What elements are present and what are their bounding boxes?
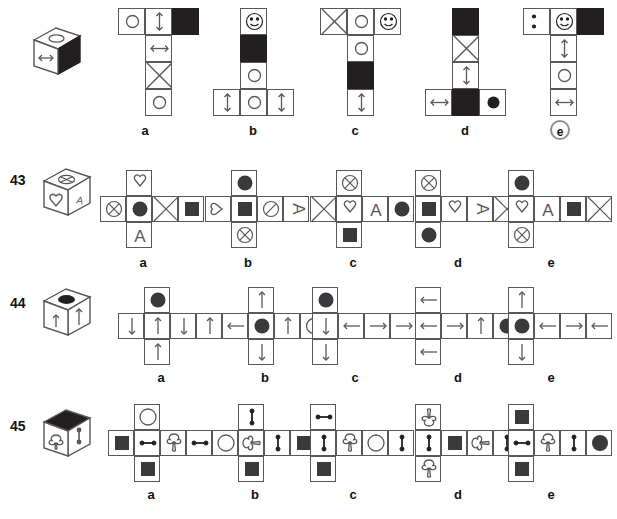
net-cell (390, 313, 416, 339)
net-cell (118, 313, 144, 339)
net-cell (508, 170, 534, 196)
cube-45 (38, 404, 98, 464)
net-cell (415, 287, 441, 313)
net-cell (388, 196, 414, 222)
net-cell (312, 313, 338, 339)
net-cell (415, 404, 441, 430)
svg-text:A: A (542, 201, 554, 220)
net-cell (336, 196, 362, 222)
net-cell (534, 430, 560, 456)
net-cell (108, 430, 134, 456)
net-cell (172, 8, 199, 35)
net-cell (338, 313, 364, 339)
net-cell (560, 430, 586, 456)
net-cell (205, 196, 231, 222)
net-cell (508, 196, 534, 222)
net-cell (238, 456, 264, 482)
net-cell (336, 170, 362, 196)
net-cell (274, 313, 300, 339)
net-cell (238, 404, 264, 430)
net-cell (452, 62, 479, 89)
net-cell (134, 430, 160, 456)
net-cell (240, 8, 267, 35)
net-cell (134, 404, 160, 430)
option-label-b: b (238, 255, 258, 270)
net-cell (310, 196, 336, 222)
net-cell (347, 62, 374, 89)
net-cell: A (126, 222, 152, 248)
net-cell (248, 339, 274, 365)
net-cell (452, 35, 479, 62)
net-cell (257, 196, 283, 222)
option-label-e: e (541, 255, 561, 270)
net-cell (479, 89, 506, 116)
net-cell (320, 8, 347, 35)
net-cell: A (362, 196, 388, 222)
net-cell (231, 170, 257, 196)
net-cell (586, 313, 612, 339)
option-label-c: c (343, 255, 363, 270)
net-cell (100, 196, 126, 222)
net-cell (441, 430, 467, 456)
net-cell (441, 196, 467, 222)
question-row-44: 44 a (0, 275, 617, 390)
net-cell (240, 89, 267, 116)
net-cell (160, 430, 186, 456)
net-cell (312, 339, 338, 365)
question-row-42: a b (0, 0, 617, 150)
net-cell (212, 430, 238, 456)
net-cell (310, 430, 336, 456)
net-cell (170, 313, 196, 339)
cube-43: A (38, 163, 96, 221)
net-cell (415, 170, 441, 196)
net-cell (508, 430, 534, 456)
net-cell (362, 430, 388, 456)
net-cell (586, 196, 612, 222)
net-cell (452, 8, 479, 35)
net-cell (145, 89, 172, 116)
net-cell (178, 196, 204, 222)
net-cell (415, 222, 441, 248)
net-cell (240, 62, 267, 89)
question-number-44: 44 (10, 295, 26, 311)
net-cell (508, 404, 534, 430)
net-cell: A (467, 196, 493, 222)
net-cell (415, 339, 441, 365)
net-cell (560, 196, 586, 222)
svg-text:A: A (473, 203, 492, 215)
net-cell (508, 313, 534, 339)
net-cell (586, 430, 612, 456)
net-cell (336, 222, 362, 248)
net-cell (347, 89, 374, 116)
net-cell (467, 430, 493, 456)
net-cell (248, 313, 274, 339)
cube-42 (28, 22, 86, 80)
net-cell (312, 287, 338, 313)
net-cell (577, 8, 604, 35)
net-cell (240, 35, 267, 62)
option-label-c: c (345, 370, 365, 385)
net-cell (134, 456, 160, 482)
net-cell (264, 430, 290, 456)
net-cell (415, 313, 441, 339)
net-cell (144, 313, 170, 339)
net-cell (560, 313, 586, 339)
net-cell: A (534, 196, 560, 222)
net-cell (267, 89, 294, 116)
option-label-e-selected[interactable]: e (550, 120, 570, 140)
option-label-a: a (135, 123, 155, 138)
option-label-e: e (541, 370, 561, 385)
question-row-45: 45 (0, 390, 617, 519)
net-cell (118, 8, 145, 35)
net-cell (145, 35, 172, 62)
option-label-a: a (141, 487, 161, 502)
net-cell (374, 8, 401, 35)
net-cell (550, 35, 577, 62)
net-cell (508, 456, 534, 482)
net-cell (364, 313, 390, 339)
net-cell (144, 287, 170, 313)
net-cell (231, 196, 257, 222)
option-label-d: d (448, 487, 468, 502)
net-cell (508, 222, 534, 248)
net-cell (231, 222, 257, 248)
